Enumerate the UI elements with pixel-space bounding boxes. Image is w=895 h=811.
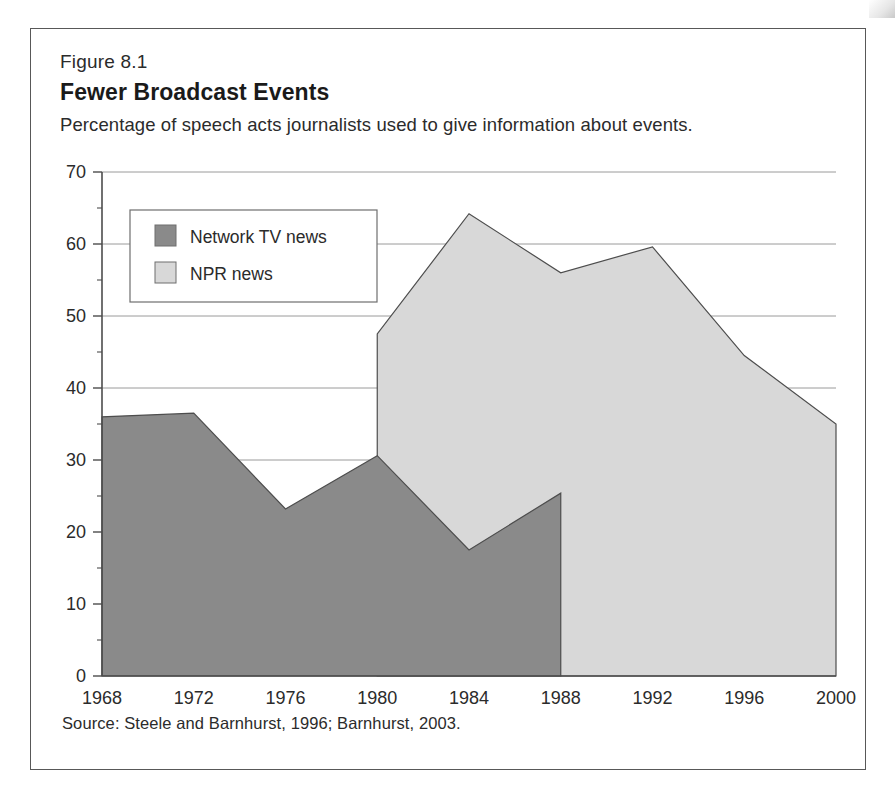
y-tick-label: 40	[66, 378, 86, 398]
legend-box	[130, 210, 377, 302]
source-note: Source: Steele and Barnhurst, 1996; Barn…	[62, 714, 461, 733]
y-tick-label: 0	[76, 666, 86, 686]
x-tick-label: 1980	[357, 688, 397, 708]
figure-header: Figure 8.1 Fewer Broadcast Events Percen…	[60, 50, 820, 136]
area-chart: 010203040506070 196819721976198019841988…	[30, 140, 870, 710]
legend-swatch	[155, 225, 176, 246]
chart-legend: Network TV newsNPR news	[130, 210, 377, 302]
figure-subtitle: Percentage of speech acts journalists us…	[60, 113, 820, 136]
page-edge-decoration	[869, 0, 895, 18]
figure-title: Fewer Broadcast Events	[60, 79, 820, 107]
chart-plot-area: 010203040506070 196819721976198019841988…	[30, 140, 870, 710]
y-axis-labels: 010203040506070	[66, 162, 86, 686]
x-tick-label: 2000	[816, 688, 856, 708]
y-tick-label: 50	[66, 306, 86, 326]
x-tick-label: 1968	[82, 688, 122, 708]
y-tick-label: 30	[66, 450, 86, 470]
x-tick-label: 1992	[632, 688, 672, 708]
y-tick-label: 10	[66, 594, 86, 614]
y-tick-label: 60	[66, 234, 86, 254]
x-tick-label: 1988	[541, 688, 581, 708]
x-axis-labels: 196819721976198019841988199219962000	[82, 688, 856, 708]
legend-label: Network TV news	[190, 227, 327, 247]
y-tick-label: 20	[66, 522, 86, 542]
legend-swatch	[155, 262, 176, 283]
x-tick-label: 1996	[724, 688, 764, 708]
figure-number: Figure 8.1	[60, 50, 820, 74]
legend-label: NPR news	[190, 264, 273, 284]
x-tick-label: 1976	[265, 688, 305, 708]
x-tick-label: 1984	[449, 688, 489, 708]
x-tick-label: 1972	[174, 688, 214, 708]
y-tick-label: 70	[66, 162, 86, 182]
